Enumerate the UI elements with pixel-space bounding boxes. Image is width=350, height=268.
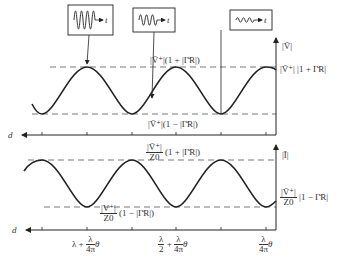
box3-t-label: t <box>264 15 267 25</box>
lower-right-value-label: |V̄⁺|Z0 |1 − Γ̄R| <box>280 188 328 207</box>
lower-min-label: |V⁺|Z0 (1 − |Γ̄R|) <box>100 204 154 223</box>
waveform-box-large <box>68 5 113 64</box>
box1-t-label: t <box>105 15 108 25</box>
upper-right-value-label: |V̄⁺| |1 + Γ̄R| <box>280 64 326 74</box>
standing-wave-diagram <box>0 0 350 268</box>
x-tick-label-3: λ4πθ <box>259 235 272 254</box>
lower-max-label: |V̄⁺|Z0 (1 + |Γ̄R|) <box>146 143 200 162</box>
voltage-standing-wave-curve <box>32 67 276 114</box>
waveform-box-small <box>221 10 272 114</box>
lower-y-axis-label: |Ī| <box>282 150 289 160</box>
current-standing-wave-curve <box>24 160 276 207</box>
upper-min-label: |V̄⁺|(1 − |Γ̄R|) <box>148 119 198 129</box>
upper-x-axis-label: d <box>8 130 13 140</box>
box2-t-label: t <box>167 15 170 25</box>
lower-x-axis-label: d <box>12 225 17 235</box>
upper-max-label: |V̄⁺|(1 + |Γ̄R|) <box>150 55 200 65</box>
upper-y-axis-label: |V̄| <box>282 41 292 51</box>
x-tick-label-1: λ + λ4πθ <box>72 235 99 254</box>
x-tick-label-2: λ2 + λ4πθ <box>158 235 187 254</box>
